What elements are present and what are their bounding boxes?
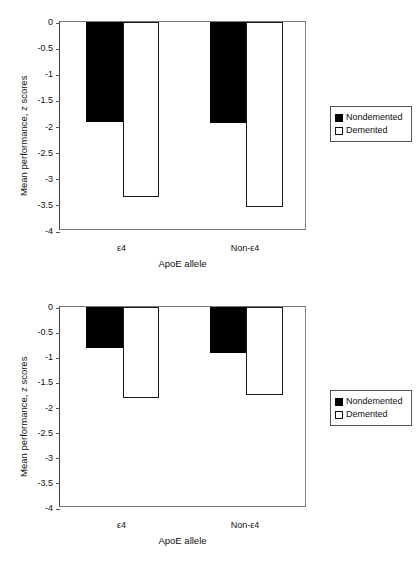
y-tick-label: -1: [45, 351, 53, 364]
y-tick-mark: [56, 408, 60, 409]
y-axis-title-top: Mean performance, z scores: [18, 76, 29, 196]
y-tick-mark: [56, 23, 60, 24]
bar-nondemented-1: [210, 22, 247, 123]
bar-demented-1: [246, 307, 283, 395]
y-tick-mark: [56, 101, 60, 102]
y-tick-mark: [56, 333, 60, 334]
bar-nondemented-0: [86, 307, 123, 348]
legend-item-demented-top: Demented: [335, 124, 408, 137]
legend-item-nondemented-bottom: Nondemented: [335, 395, 408, 408]
x-category-label-bottom-1: Non-ε4: [205, 520, 285, 530]
y-tick-label: -0.5: [37, 42, 53, 55]
y-tick-label: -2: [45, 121, 53, 134]
y-axis-tick-7: -3.5: [60, 483, 305, 484]
y-tick-label: -1.5: [37, 376, 53, 389]
legend-item-nondemented-top: Nondemented: [335, 111, 408, 124]
plot-area-bottom: 0-0.5-1-1.5-2-2.5-3-3.5-4: [59, 306, 306, 507]
legend-swatch-demented-icon: [335, 411, 343, 419]
y-tick-mark: [56, 127, 60, 128]
y-axis-tick-4: -2: [60, 408, 305, 409]
y-tick-label: -3.5: [37, 199, 53, 212]
legend-bottom: Nondemented Demented: [330, 390, 412, 426]
y-axis-tick-8: -4: [60, 508, 305, 509]
bar-demented-1: [246, 22, 283, 207]
y-axis-title-bottom: Mean performance, z scores: [18, 357, 29, 477]
y-tick-mark: [56, 358, 60, 359]
x-category-label-top-0: ε4: [82, 243, 162, 253]
y-tick-label: -1.5: [37, 94, 53, 107]
y-tick-label: 0: [48, 301, 53, 314]
bar-nondemented-0: [86, 22, 123, 122]
y-tick-mark: [56, 75, 60, 76]
y-tick-mark: [56, 205, 60, 206]
y-axis-tick-6: -3: [60, 458, 305, 459]
y-tick-mark: [56, 483, 60, 484]
y-tick-label: 0: [48, 16, 53, 29]
bar-demented-0: [123, 307, 160, 398]
y-tick-mark: [56, 179, 60, 180]
y-axis-tick-5: -2.5: [60, 433, 305, 434]
x-axis-title-bottom: ApoE allele: [59, 535, 306, 546]
y-tick-mark: [56, 383, 60, 384]
y-tick-mark: [56, 308, 60, 309]
bar-demented-0: [123, 22, 160, 197]
plot-area-top: 0-0.5-1-1.5-2-2.5-3-3.5-4: [59, 21, 306, 230]
y-tick-label: -3.5: [37, 477, 53, 490]
y-tick-mark: [56, 433, 60, 434]
x-category-label-bottom-0: ε4: [82, 520, 162, 530]
y-axis-tick-8: -4: [60, 231, 305, 232]
y-tick-label: -4: [45, 502, 53, 515]
legend-label-demented-top: Demented: [346, 125, 388, 136]
y-tick-label: -0.5: [37, 326, 53, 339]
legend-label-demented-bottom: Demented: [346, 409, 388, 420]
legend-swatch-nondemented-icon: [335, 114, 343, 122]
y-tick-label: -2: [45, 402, 53, 415]
legend-item-demented-bottom: Demented: [335, 408, 408, 421]
y-tick-label: -2.5: [37, 147, 53, 160]
legend-label-nondemented-top: Nondemented: [346, 112, 403, 123]
legend-label-nondemented-bottom: Nondemented: [346, 396, 403, 407]
chart-panel-top: 0-0.5-1-1.5-2-2.5-3-3.5-4 Mean performan…: [0, 0, 418, 286]
chart-panel-bottom: 0-0.5-1-1.5-2-2.5-3-3.5-4 Mean performan…: [0, 287, 418, 573]
x-axis-title-top: ApoE allele: [59, 258, 306, 269]
legend-top: Nondemented Demented: [330, 106, 412, 142]
legend-swatch-nondemented-icon: [335, 398, 343, 406]
y-tick-label: -1: [45, 68, 53, 81]
y-tick-label: -3: [45, 452, 53, 465]
y-tick-mark: [56, 153, 60, 154]
y-tick-mark: [56, 509, 60, 510]
y-tick-mark: [56, 49, 60, 50]
y-tick-label: -4: [45, 225, 53, 238]
y-tick-mark: [56, 458, 60, 459]
y-tick-label: -2.5: [37, 427, 53, 440]
y-tick-label: -3: [45, 173, 53, 186]
legend-swatch-demented-icon: [335, 127, 343, 135]
x-category-label-top-1: Non-ε4: [205, 243, 285, 253]
bar-nondemented-1: [210, 307, 247, 353]
y-tick-mark: [56, 232, 60, 233]
